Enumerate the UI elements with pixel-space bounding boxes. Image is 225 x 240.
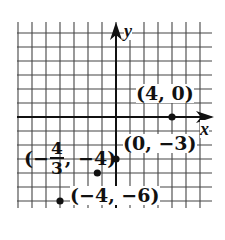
label-suffix: , −4)	[65, 147, 116, 169]
label-prefix: (−	[24, 147, 49, 169]
y-axis-label: y	[124, 22, 132, 40]
x-axis-label: x	[200, 120, 209, 138]
point-label-4-0: (4, 0)	[136, 84, 194, 103]
data-point	[56, 197, 63, 204]
fraction-numerator: 4	[50, 140, 64, 157]
point-label-neg4thirds-neg4: (−43, −4)	[24, 140, 116, 177]
point-label-neg4-neg6: (−4, −6)	[70, 186, 160, 205]
grid-lines	[17, 22, 212, 208]
fraction: 43	[50, 140, 64, 177]
data-point	[168, 113, 175, 120]
point-label-0-neg3: (0, −3)	[123, 134, 197, 153]
fraction-denominator: 3	[50, 157, 64, 177]
